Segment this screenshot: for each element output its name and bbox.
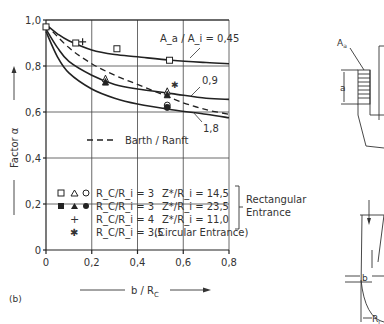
- panel-label: (b): [9, 294, 22, 304]
- y-axis-label: Factor α: [9, 66, 20, 215]
- legend-dashed-label: Barth / Ranft: [125, 135, 189, 146]
- y-tick-label: 0: [35, 245, 41, 256]
- y-tick-label: 0,8: [25, 61, 41, 72]
- y-tick-label: 0,2: [25, 199, 41, 210]
- marker-open-square: [167, 57, 173, 63]
- legend-z-1: Z*/R_i = 14,5: [162, 188, 229, 200]
- x-tick-label: 0,4: [130, 257, 146, 268]
- legend-row-4: ✱ R_C/R_i = 3,5 (Circular Entrance): [70, 227, 248, 239]
- y-axis-title: Factor α: [9, 127, 20, 168]
- legend-bracket: [235, 186, 243, 229]
- marker-open-square: [73, 40, 79, 46]
- sketch-label-ri: Ri: [372, 314, 380, 324]
- legend-rc-2: R_C/R_i = 3: [96, 201, 154, 213]
- x-axis-title: b / RC: [131, 285, 159, 299]
- legend-asterisk-symbol: ✱: [70, 227, 78, 238]
- legend-row-3: + R_C/R_i = 4 Z*/R_i = 11,0: [70, 213, 229, 226]
- entrance-sketch: Aa a b Ri: [337, 38, 384, 324]
- marker-filled-circle: [164, 104, 170, 110]
- x-axis-label: b / RC: [80, 285, 211, 299]
- legend: R_C/R_i = 3 Z*/R_i = 14,5 R_C/R_i = 3 Z*…: [58, 186, 307, 239]
- annotation-aa-ai: A_a / A_i = 0,45: [160, 33, 239, 45]
- annotation-1-8: 1,8: [203, 123, 219, 134]
- x-tick-label: 0: [43, 257, 49, 268]
- marker-plus: [79, 38, 86, 45]
- chart: ✱ 00,20,40,60,81,000,20,40,60,8 A_a / A_…: [0, 0, 384, 324]
- legend-row-2: R_C/R_i = 3 Z*/R_i = 23,5: [58, 201, 229, 213]
- y-tick-label: 1,0: [25, 15, 41, 26]
- legend-rc-3: R_C/R_i = 4: [96, 214, 154, 226]
- legend-dashed: Barth / Ranft: [87, 135, 189, 146]
- x-tick-label: 0,8: [221, 257, 237, 268]
- marker-open-square: [114, 46, 120, 52]
- marker-asterisk: ✱: [171, 80, 179, 90]
- annotation-0-9: 0,9: [202, 75, 218, 86]
- bracket-label-2: Entrance: [246, 207, 291, 218]
- bracket-label-1: Rectangular: [246, 194, 307, 205]
- y-tick-label: 0,4: [25, 153, 41, 164]
- legend-z-3: Z*/R_i = 11,0: [162, 214, 229, 226]
- legend-row-1: R_C/R_i = 3 Z*/R_i = 14,5: [58, 188, 229, 200]
- legend-z-4: (Circular Entrance): [154, 227, 248, 238]
- sketch-label-b: b: [362, 273, 368, 283]
- marker-open-square: [43, 24, 49, 30]
- legend-z-2: Z*/R_i = 23,5: [162, 201, 229, 213]
- y-tick-label: 0,6: [25, 107, 41, 118]
- legend-rc-1: R_C/R_i = 3: [96, 188, 154, 200]
- sketch-label-a: a: [340, 83, 346, 93]
- legend-plus-symbol: +: [70, 213, 79, 226]
- x-tick-label: 0,2: [84, 257, 100, 268]
- x-tick-label: 0,6: [175, 257, 191, 268]
- sketch-label-area: Aa: [337, 38, 347, 49]
